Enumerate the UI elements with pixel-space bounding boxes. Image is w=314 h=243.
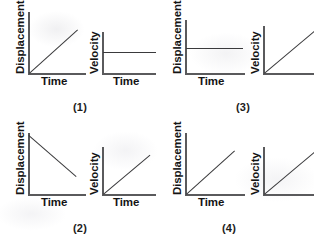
panel-3-velocity-graph: Velocity Time — [249, 12, 314, 76]
panel-3: Displacement Time Velocity Time (3) — [157, 0, 314, 121]
y-axis — [185, 133, 187, 195]
y-axis-label: Velocity — [88, 152, 100, 195]
x-axis-label: Time — [198, 196, 224, 208]
x-axis-label: Time — [41, 196, 67, 208]
y-axis-label: Velocity — [88, 31, 100, 74]
panel-caption: (3) — [236, 101, 250, 113]
displacement-line-decreasing — [28, 135, 76, 177]
y-axis — [102, 147, 104, 195]
velocity-line-increasing — [264, 29, 314, 73]
y-axis-label: Displacement — [171, 121, 183, 195]
panel-2-displacement-graph: Displacement Time — [14, 133, 84, 197]
y-axis-label: Displacement — [14, 0, 26, 74]
panel-2-velocity-graph: Velocity Time — [88, 133, 156, 197]
y-axis — [185, 20, 187, 74]
panel-caption: (4) — [222, 222, 236, 234]
y-axis-label: Velocity — [249, 152, 261, 195]
panel-1: Displacement Time Velocity Time (1) — [0, 0, 157, 121]
displacement-line-increasing — [186, 151, 235, 195]
panel-3-displacement-graph: Displacement Time — [171, 12, 245, 76]
panel-caption: (2) — [73, 222, 87, 234]
physics-graphs-figure: Displacement Time Velocity Time (1) Disp… — [0, 0, 314, 243]
panel-4-velocity-graph: Velocity Time — [249, 133, 314, 197]
panel-1-displacement-graph: Displacement Time — [14, 12, 84, 76]
y-axis — [263, 147, 265, 195]
y-axis — [102, 32, 104, 74]
x-axis-label: Time — [113, 75, 139, 87]
panel-1-velocity-graph: Velocity Time — [88, 12, 156, 76]
y-axis-label: Displacement — [14, 121, 26, 195]
velocity-line-increasing — [103, 155, 150, 195]
y-axis — [263, 26, 265, 74]
x-axis-label: Time — [41, 75, 67, 87]
x-axis-label: Time — [113, 196, 139, 208]
panel-4-displacement-graph: Displacement Time — [171, 133, 245, 197]
x-axis-label: Time — [198, 75, 224, 87]
velocity-line-increasing — [264, 150, 314, 194]
panel-4: Displacement Time Velocity Time (4) — [157, 121, 314, 242]
y-axis-label: Displacement — [171, 0, 183, 74]
panel-caption: (1) — [73, 101, 87, 113]
y-axis — [28, 12, 30, 74]
velocity-line-constant — [103, 52, 156, 53]
y-axis — [28, 133, 30, 195]
x-axis-label: Time — [274, 196, 300, 197]
y-axis-label: Velocity — [249, 31, 261, 74]
panel-2: Displacement Time Velocity Time (2) — [0, 121, 157, 242]
displacement-line-increasing — [29, 30, 78, 74]
x-axis-label: Time — [274, 75, 300, 76]
displacement-line-constant — [186, 48, 243, 49]
